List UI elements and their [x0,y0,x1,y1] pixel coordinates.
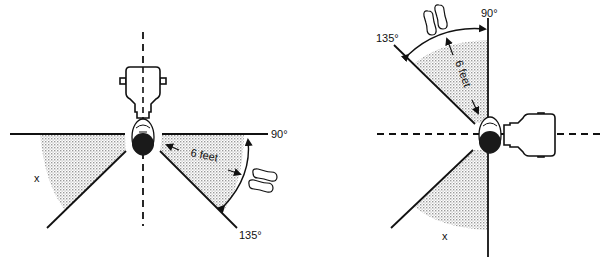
right-head-icon [479,117,501,153]
left-diagram: 6 feet 90° 135° x [10,32,288,241]
diagram-canvas: 6 feet 90° 135° x [0,0,605,263]
right-zone-label: x [442,230,448,242]
left-90-degree-label: 90° [271,128,288,140]
right-footprints-icon [424,5,447,35]
left-footprints-icon [249,169,277,192]
right-stroller-icon [504,113,555,157]
right-diagram: 6 feet 90° 135° x [376,5,605,257]
right-135-degree-label: 135° [376,32,399,44]
left-blind-zone-right [160,134,244,213]
right-90-degree-label: 90° [481,7,498,19]
left-135-degree-label: 135° [239,229,262,241]
right-blind-zone-bottom [415,150,488,230]
left-head-icon [132,119,154,155]
left-zone-label: x [34,172,40,184]
left-blind-zone-left [40,134,126,210]
